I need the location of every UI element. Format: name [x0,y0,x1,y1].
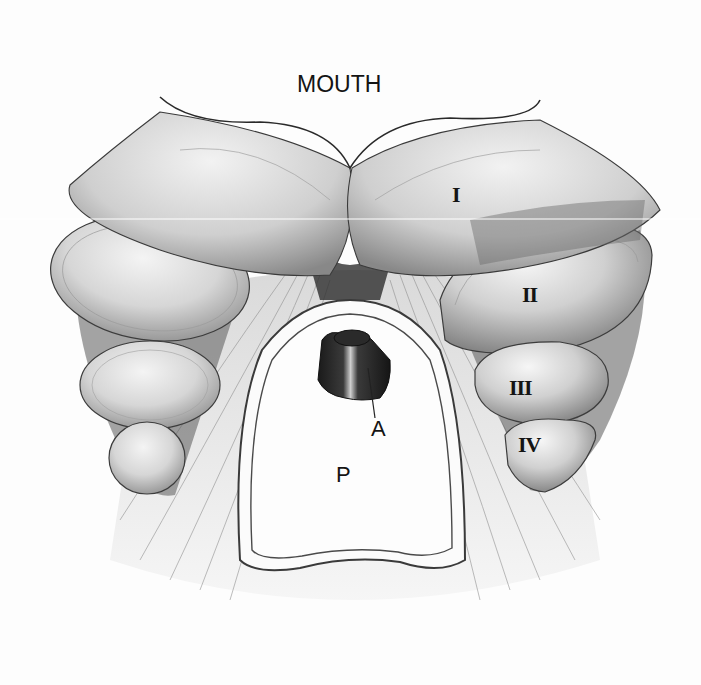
label-mouth: MOUTH [297,73,381,96]
anatomy-drawing [0,0,701,685]
label-lobe-III: III [509,377,532,399]
label-plate: P [336,464,351,486]
label-lobe-IV: IV [518,434,540,456]
label-lobe-II: II [522,284,537,306]
illustration-canvas: MOUTH I II III IV A P [0,0,701,685]
label-lobe-I: I [452,184,460,206]
label-aperture: A [371,418,386,440]
